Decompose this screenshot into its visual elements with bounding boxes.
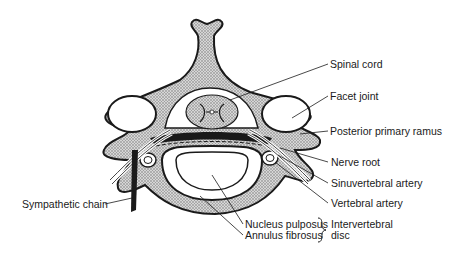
label-nerve-root: Nerve root (331, 157, 380, 168)
label-posterior-primary-ramus: Posterior primary ramus (330, 126, 442, 137)
facet-joint-right (262, 96, 310, 132)
label-spinal-cord: Spinal cord (330, 59, 383, 70)
label-vertebral-artery: Vertebral artery (331, 198, 403, 209)
label-disc: disc (331, 230, 350, 241)
label-annulus-fibrosus: Annulus fibrosus (245, 230, 323, 241)
label-sinuvertebral-artery: Sinuvertebral artery (331, 178, 423, 189)
label-sympathetic-chain: Sympathetic chain (22, 199, 108, 210)
facet-joint-left (108, 96, 156, 132)
sympathetic-chain-shape (131, 150, 138, 212)
label-facet-joint: Facet joint (330, 91, 378, 102)
